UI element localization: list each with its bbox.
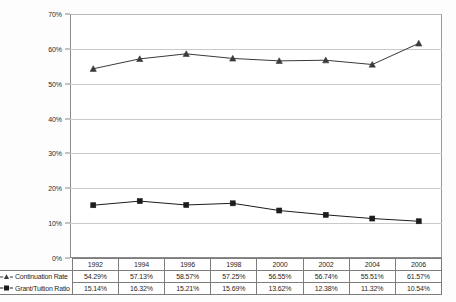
table-header-year: 2006 xyxy=(395,259,441,271)
triangle-marker-icon xyxy=(0,273,13,281)
table-cell: 55.51% xyxy=(349,271,395,283)
table-row: Continuation Rate54.29%57.13%58.57%57.25… xyxy=(0,271,442,283)
data-table: 19921994199619982000200220042006 Continu… xyxy=(0,258,442,295)
table-header-year: 2002 xyxy=(303,259,349,271)
table-row: Grant/Tuition Ratio15.14%16.32%15.21%15.… xyxy=(0,283,442,295)
series-plot xyxy=(70,14,442,258)
table-cell: 61.57% xyxy=(395,271,441,283)
y-axis-tick-label: 30% xyxy=(48,150,62,157)
table-cell: 57.13% xyxy=(118,271,164,283)
y-axis-tick-label: 70% xyxy=(48,11,62,18)
table-cell: 15.69% xyxy=(211,283,257,295)
y-axis-tick-label: 40% xyxy=(48,115,62,122)
data-point-square xyxy=(370,216,375,221)
table-cell: 56.74% xyxy=(303,271,349,283)
table-cell: 56.55% xyxy=(257,271,303,283)
table-cell: 12.38% xyxy=(303,283,349,295)
table-cell: 57.25% xyxy=(211,271,257,283)
legend-entry[interactable]: Continuation Rate xyxy=(0,271,72,283)
table-cell: 10.54% xyxy=(395,283,441,295)
y-axis-tick-label: 20% xyxy=(48,185,62,192)
y-axis-tick-label: 60% xyxy=(48,45,62,52)
data-point-square xyxy=(137,199,142,204)
table-header-year: 2004 xyxy=(349,259,395,271)
table-cell: 15.14% xyxy=(72,283,118,295)
data-point-square xyxy=(184,202,189,207)
y-axis-tick-label: 50% xyxy=(48,80,62,87)
series-line-1 xyxy=(93,43,419,68)
legend-label: Continuation Rate xyxy=(15,271,68,282)
table-cell: 13.62% xyxy=(257,283,303,295)
data-point-square xyxy=(230,201,235,206)
y-axis-tick-label: 10% xyxy=(48,220,62,227)
legend-entry[interactable]: Grant/Tuition Ratio xyxy=(0,283,72,295)
table-cell: 15.21% xyxy=(165,283,211,295)
square-marker-icon xyxy=(0,284,13,292)
table-header-row: 19921994199619982000200220042006 xyxy=(0,259,442,271)
data-point-square xyxy=(416,219,421,224)
data-point-square xyxy=(91,203,96,208)
table-cell: 11.32% xyxy=(349,283,395,295)
table-header-year: 1992 xyxy=(72,259,118,271)
y-axis: 0%10%20%30%40%50%60%70% xyxy=(0,0,70,258)
data-point-triangle xyxy=(416,40,422,46)
table-cell: 58.57% xyxy=(165,271,211,283)
plot-area xyxy=(70,14,442,258)
table-header-year: 1996 xyxy=(165,259,211,271)
table-header-year: 1994 xyxy=(118,259,164,271)
table-corner-cell xyxy=(0,259,72,271)
table-cell: 54.29% xyxy=(72,271,118,283)
legend-label: Grant/Tuition Ratio xyxy=(15,283,70,294)
table-header-year: 1998 xyxy=(211,259,257,271)
chart-container: 0%10%20%30%40%50%60%70% 1992199419961998… xyxy=(0,0,456,302)
table-header-year: 2000 xyxy=(257,259,303,271)
data-point-square xyxy=(323,212,328,217)
data-point-square xyxy=(277,208,282,213)
table-cell: 16.32% xyxy=(118,283,164,295)
